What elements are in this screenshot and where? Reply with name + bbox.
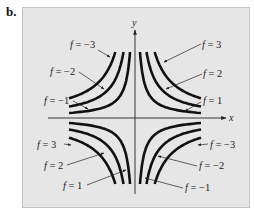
label-top-right-f-2: f = 2 — [203, 68, 222, 79]
label-top-right-f-3: f = 3 — [202, 39, 221, 50]
label-top-left-f-neg1: f = −1 — [44, 95, 69, 106]
label-bottom-right-f-neg1: f = −1 — [185, 182, 210, 193]
y-axis-label: y — [131, 17, 137, 28]
label-bottom-left-f-3: f = 3 — [37, 139, 56, 150]
label-top-right-f-1: f = 1 — [203, 95, 222, 106]
label-bottom-left-f-1: f = 1 — [63, 180, 82, 191]
plot-panel — [23, 8, 250, 208]
x-axis-label: x — [228, 112, 234, 123]
label-bottom-left-f-2: f = 2 — [44, 160, 63, 171]
label-bottom-right-f-neg3: f = −3 — [210, 139, 235, 150]
level-curves-diagram: x y f = −3 f = −2 f = −1 f = 3 f = 2 f =… — [0, 0, 254, 212]
label-top-left-f-neg2: f = −2 — [50, 66, 75, 77]
label-top-left-f-neg3: f = −3 — [70, 39, 95, 50]
label-bottom-right-f-neg2: f = −2 — [199, 160, 224, 171]
